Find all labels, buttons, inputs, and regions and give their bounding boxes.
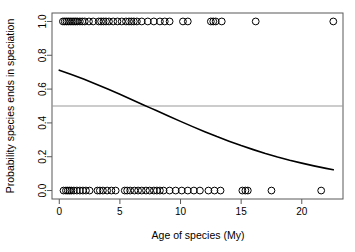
x-tick-label: 20: [296, 206, 308, 217]
y-tick-label: 0.0: [38, 183, 49, 197]
y-tick-label: 0.4: [38, 116, 49, 130]
y-tick-label: 0.2: [38, 149, 49, 163]
figure-container: 05101520 0.00.20.40.60.81.0 Age of speci…: [0, 0, 355, 252]
y-tick-label: 1.0: [38, 14, 49, 28]
x-tick-label: 5: [117, 206, 123, 217]
x-axis-title: Age of species (My): [152, 229, 245, 241]
y-tick-label: 0.6: [38, 82, 49, 96]
x-tick-label: 15: [236, 206, 248, 217]
y-axis-title: Probability species ends in speciation: [4, 19, 16, 194]
logistic-regression-chart: 05101520 0.00.20.40.60.81.0 Age of speci…: [0, 0, 355, 252]
y-tick-label: 0.8: [38, 48, 49, 62]
x-tick-label: 0: [56, 206, 62, 217]
x-tick-label: 10: [175, 206, 187, 217]
